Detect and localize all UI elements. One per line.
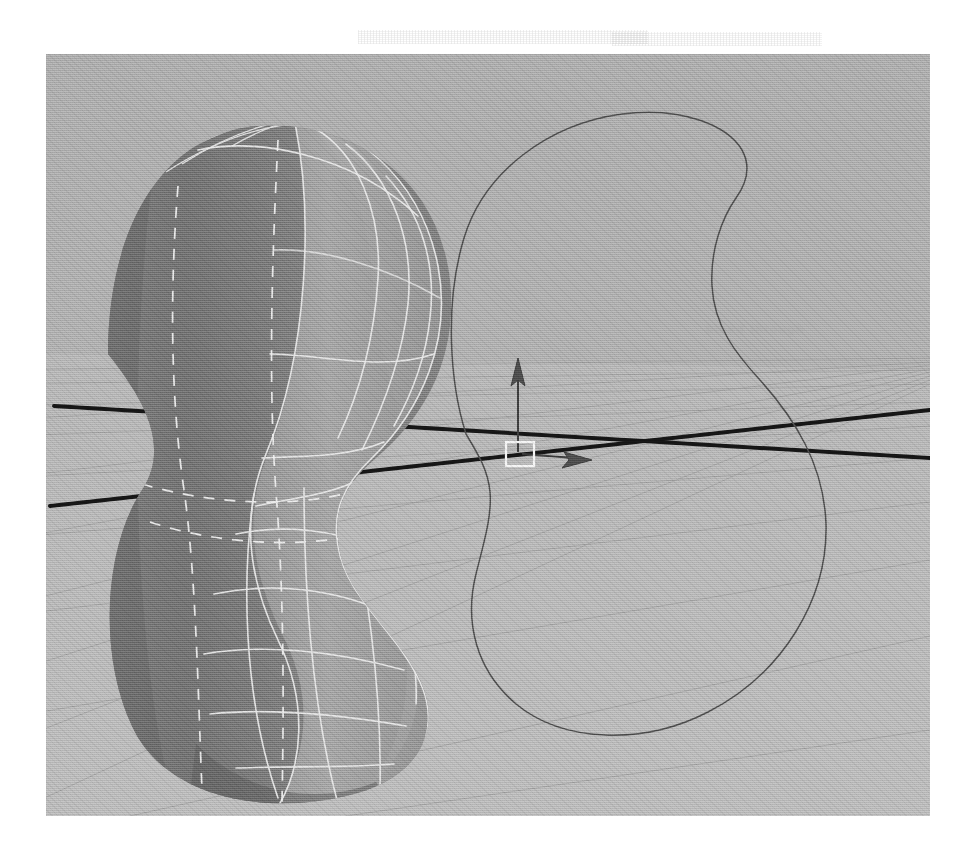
scanned-page: bleed through [0,0,974,858]
3d-viewport[interactable]: bleed through [46,54,930,816]
viewport-canvas[interactable] [46,54,930,816]
scan-noise-top-left [358,30,648,44]
scan-noise-top-right [612,32,822,46]
